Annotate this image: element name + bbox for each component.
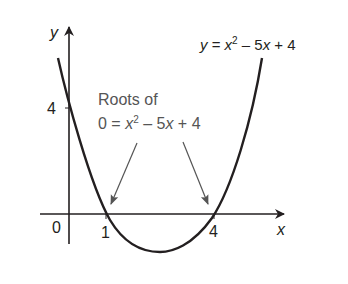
roots-annotation-line2: 0 = x2 – 5x + 4 xyxy=(98,116,201,132)
eq-equals: = xyxy=(208,36,225,53)
x-axis-label: x xyxy=(277,222,285,238)
tick-label-origin: 0 xyxy=(52,220,61,236)
ann-rest: – 5 xyxy=(139,115,166,132)
y-axis-label: y xyxy=(50,25,58,41)
ann-prefix: 0 = xyxy=(98,115,125,132)
eq-y: y xyxy=(200,36,208,53)
ann-tail: + 4 xyxy=(173,115,200,132)
parabola-diagram xyxy=(0,0,348,284)
curve-equation-label: y = x2 – 5x + 4 xyxy=(200,37,296,52)
parabola-curve xyxy=(58,58,262,252)
tick-label-root4: 4 xyxy=(209,224,218,240)
roots-annotation-line1: Roots of xyxy=(98,92,158,108)
eq-rest: – 5 xyxy=(238,36,263,53)
ann-x: x xyxy=(125,115,133,132)
arrow-root1 xyxy=(111,143,137,204)
arrow-root4 xyxy=(183,142,208,204)
tick-label-y4: 4 xyxy=(47,101,56,117)
eq-tail: + 4 xyxy=(270,36,295,53)
tick-label-root1: 1 xyxy=(101,225,110,241)
eq-x: x xyxy=(225,36,233,53)
